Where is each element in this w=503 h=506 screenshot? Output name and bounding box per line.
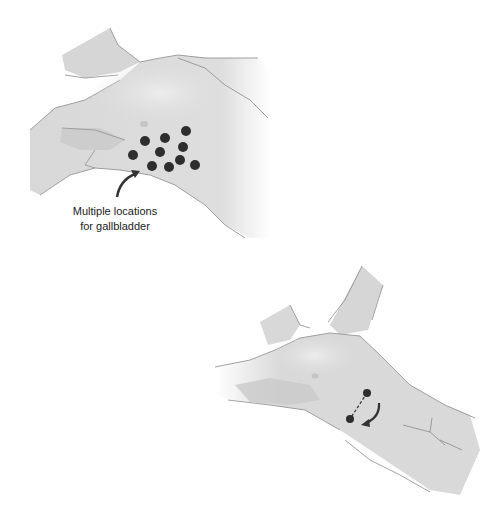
top-pointer-arrow	[117, 170, 140, 197]
gallbladder-annotation: Multiple locations for gallbladder	[55, 204, 175, 234]
annotation-line-2: for gallbladder	[55, 219, 175, 234]
annotation-line-1: Multiple locations	[55, 204, 175, 219]
illustration-canvas	[0, 0, 503, 506]
bottom-torso-illustration	[215, 266, 480, 495]
